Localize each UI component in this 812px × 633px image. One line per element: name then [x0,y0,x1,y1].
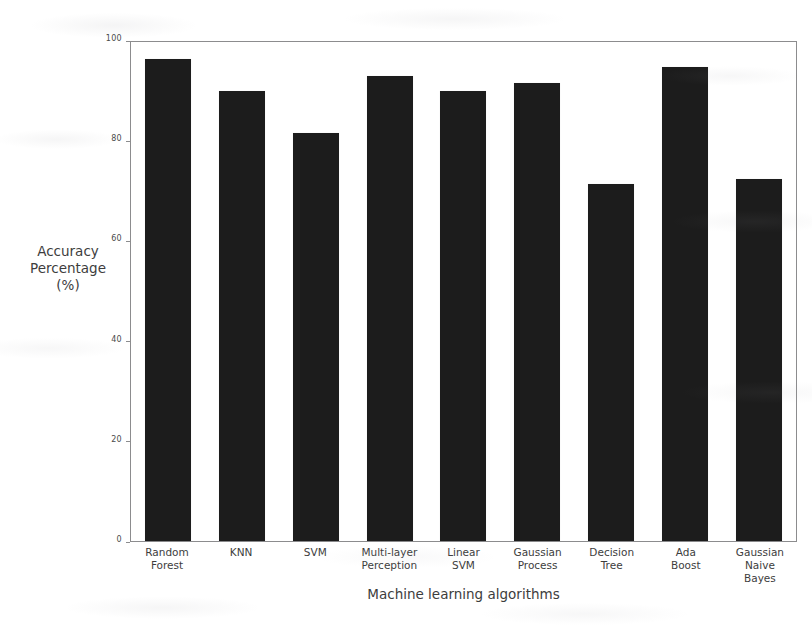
bar [588,184,634,541]
bar [662,67,708,541]
x-axis-tick-label: Multi-layerPerception [352,546,426,572]
y-axis-tick-label: 40 [111,335,122,344]
x-axis-tick-label-line: Decision [575,546,649,559]
x-axis-tick-label-line: Gaussian [723,546,797,559]
x-axis-tick-label-line: SVM [426,559,500,572]
bar [219,91,265,541]
bar [367,76,413,541]
x-axis-title: Machine learning algorithms [130,586,797,602]
x-axis-tick-label-line: Perception [352,559,426,572]
x-axis-tick-label: SVM [278,546,352,559]
x-axis-tick-label-line: SVM [278,546,352,559]
y-axis-tick-label: 0 [117,535,122,544]
bar [145,59,191,541]
bar [736,179,782,541]
y-axis-tick-label: 20 [111,435,122,444]
plot-area [130,41,797,542]
x-axis-tick-label-line: Process [501,559,575,572]
x-axis-tick-label-line: Forest [130,559,204,572]
x-axis-tick-label: LinearSVM [426,546,500,572]
bar-series [131,42,796,541]
bar [514,83,560,541]
x-axis-tick-label-line: Multi-layer [352,546,426,559]
x-axis-tick-label-line: Naive [723,559,797,572]
x-axis-tick-label: AdaBoost [649,546,723,572]
y-axis-tick-label: 100 [106,34,122,43]
x-axis-tick-label-line: Tree [575,559,649,572]
x-axis-tick-label-line: Ada [649,546,723,559]
y-axis-tick-label: 80 [111,134,122,143]
x-axis-tick-label-line: Bayes [723,572,797,585]
x-axis-tick-label: KNN [204,546,278,559]
x-axis-tick-label-line: Gaussian [501,546,575,559]
y-axis: 020406080100 [0,41,130,542]
x-axis-tick-label: GaussianNaiveBayes [723,546,797,585]
x-axis-tick-label-line: Linear [426,546,500,559]
x-axis-tick-label: RandomForest [130,546,204,572]
y-axis-tick-label: 60 [111,234,122,243]
bar-chart-figure: Accuracy Percentage (%) 020406080100 Ran… [0,0,812,633]
x-axis-tick-label: DecisionTree [575,546,649,572]
x-axis-tick-label-line: KNN [204,546,278,559]
bar [293,133,339,541]
bar [440,91,486,541]
x-axis-tick-label-line: Boost [649,559,723,572]
x-axis-tick-label-line: Random [130,546,204,559]
x-axis-tick-labels: RandomForestKNNSVMMulti-layerPerceptionL… [130,546,797,585]
x-axis-tick-label: GaussianProcess [501,546,575,572]
